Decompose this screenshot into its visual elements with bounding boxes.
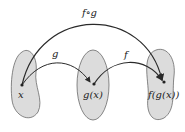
label-x: x: [18, 89, 24, 100]
label-gx: g(x): [83, 89, 103, 100]
domain-set: [11, 50, 40, 117]
label-g: g: [52, 48, 58, 59]
composition-diagram: f∘g g f x g(x) f(g(x)): [0, 0, 185, 132]
label-fgx: f(g(x)): [147, 89, 179, 100]
label-f: f: [123, 49, 130, 60]
label-fog: f∘g: [81, 7, 97, 18]
point-x: [20, 83, 23, 86]
point-fgx: [162, 80, 165, 83]
codomain-set: [147, 49, 175, 119]
point-gx: [92, 82, 95, 85]
